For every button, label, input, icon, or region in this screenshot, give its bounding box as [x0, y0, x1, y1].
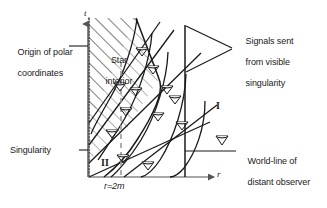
spacetime-diagram-figure: Origin of polar coordinates Star interio…: [0, 0, 327, 208]
t-axis-label: t: [84, 8, 87, 18]
signal-leader-lines: [186, 26, 232, 72]
r-axis-label: r: [217, 169, 221, 179]
light-cone: [152, 113, 164, 121]
world-line-of-distant-observer-label: World-line of distant observer: [238, 145, 310, 198]
singularity-label: Singularity: [10, 145, 51, 156]
signals-sent-label: Signals sent from visible singularity: [236, 25, 293, 99]
light-cone-legend-symbol: [216, 136, 228, 145]
star-interior-label: Star interior: [96, 44, 132, 97]
origin-of-polar-coordinates-label: Origin of polar coordinates: [8, 36, 73, 89]
horizon-radius-label: r=2m: [104, 181, 124, 192]
region-II-label: II: [101, 157, 109, 168]
light-cone: [142, 162, 154, 170]
light-cone: [169, 96, 181, 104]
region-I-label: I: [216, 100, 220, 111]
